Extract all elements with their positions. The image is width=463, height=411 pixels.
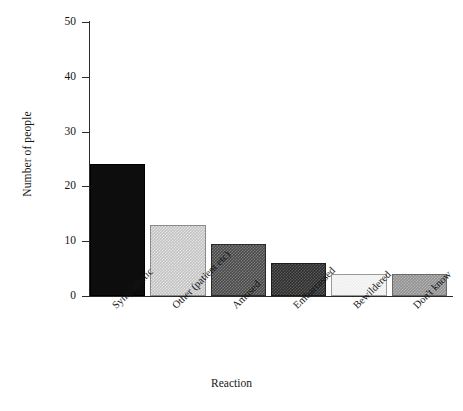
y-axis-tick-label: 30 [50,126,76,138]
y-axis-tick [82,186,90,187]
y-axis-tick-label: 0 [50,290,76,302]
y-axis-tick-label: 40 [50,71,76,83]
y-axis-title: Number of people [21,94,33,214]
y-axis-tick [82,296,90,297]
plot-area [90,22,452,296]
bar-chart: Number of people 01020304050 Sympathetic… [0,0,463,411]
y-axis-tick-label: 50 [50,16,76,28]
y-axis-tick [82,241,90,242]
y-axis-tick-label: 20 [50,180,76,192]
y-axis-tick [82,77,90,78]
y-axis-tick [82,22,90,23]
x-axis-line [89,296,453,297]
y-axis-tick-label: 10 [50,235,76,247]
x-axis-title: Reaction [0,377,463,389]
y-axis-tick [82,132,90,133]
